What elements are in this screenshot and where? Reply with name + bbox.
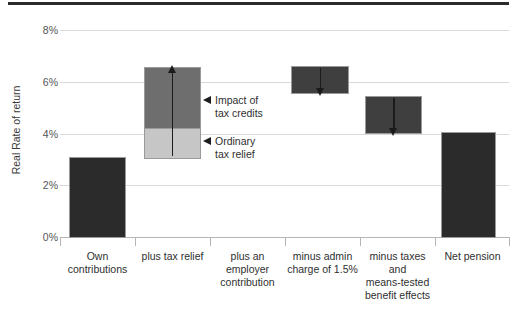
category-tick-1 [135,237,136,246]
ordinary-tax-relief-arrow-icon [203,137,211,145]
category-label-plus-tax-relief: plus tax relief [133,250,212,263]
category-label-minus-taxes-means-tested: minus taxes and means-tested benefit eff… [358,250,437,302]
impact-of-tax-credits-label: Impact of tax credits [215,94,310,120]
category-label-line: plus an [208,250,287,263]
y-tick-label-4: 4% [8,129,58,139]
category-label-plus-employer-contribution: plus an employer contribution [208,250,287,289]
category-label-line: Own [58,250,137,263]
category-tick-3 [285,237,286,246]
ordinary-tax-relief-label: Ordinary tax relief [215,135,310,161]
category-label-own-contributions: Own contributions [58,250,137,276]
category-label-line: contributions [58,263,137,276]
bar-arrow-up-line [172,72,174,156]
category-label-net-pension: Net pension [433,250,512,263]
category-tick-2 [210,237,211,246]
category-label-line: plus tax relief [133,250,212,263]
bar-arrow-up-head-icon [168,65,176,73]
bar-arrow-down-head-icon-taxes [389,128,397,136]
figure-top-rule [8,2,509,5]
category-label-line: and [358,263,437,276]
category-tick-5 [435,237,436,246]
category-label-line: charge of 1.5% [283,263,362,276]
y-tick-label-2: 2% [8,180,58,190]
category-label-line: means-tested [358,276,437,289]
category-label-line: benefit effects [358,289,437,302]
category-tick-6 [509,237,510,246]
category-tick-0 [60,237,61,246]
y-tick-label-6: 6% [8,77,58,87]
category-tick-4 [360,237,361,246]
category-label-line: Net pension [433,250,512,263]
gridline-6 [60,82,509,83]
impact-of-tax-credits-arrow-icon [203,96,211,104]
category-label-line: minus taxes [358,250,437,263]
category-label-line: minus admin [283,250,362,263]
category-label-line: contribution [208,276,287,289]
chart-figure: Real Rate of return 8% 6% 4% 2% 0% Impac… [0,0,517,320]
category-label-minus-admin-charge: minus admin charge of 1.5% [283,250,362,276]
y-tick-label-0: 0% [8,232,58,242]
gridline-8 [60,30,509,31]
bar-own-contributions [70,158,125,237]
bar-net-pension [442,133,495,237]
y-tick-label-8: 8% [8,25,58,35]
category-label-line: employer [208,263,287,276]
bar-arrow-down-head-icon-admin [316,88,324,96]
bar-arrow-down-line-taxes [393,98,395,131]
